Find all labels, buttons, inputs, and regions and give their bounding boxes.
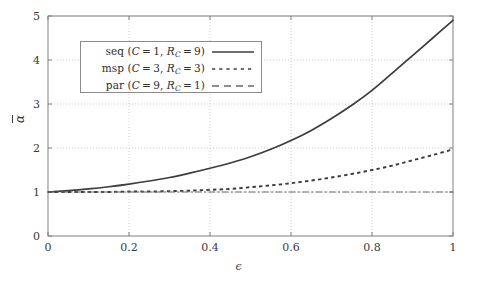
legend-label-par: par (C = 9, RC = 1) — [106, 79, 211, 93]
chart-figure: 0 1 2 3 4 5 0 0.2 0.4 0.6 0.8 1 ϵ α seq … — [0, 0, 477, 281]
ytick-label-1: 1 — [18, 186, 40, 199]
legend-entry-msp: msp (C = 3, RC = 3) — [81, 60, 263, 77]
x-axis-label: ϵ — [0, 260, 477, 273]
legend-entry-seq: seq (C = 1, RC = 9) — [81, 43, 263, 60]
legend-label-msp: msp (C = 3, RC = 3) — [102, 62, 211, 76]
legend-sample-par — [211, 80, 255, 92]
legend-sample-seq — [211, 46, 255, 58]
legend-entry-par: par (C = 9, RC = 1) — [81, 77, 263, 94]
y-axis-label: α — [13, 105, 27, 133]
xtick-label-1: 0.2 — [109, 241, 149, 254]
legend-label-seq: seq (C = 1, RC = 9) — [106, 45, 212, 59]
y-axis-label-text: α — [13, 115, 27, 123]
ytick-label-4: 4 — [18, 54, 40, 67]
legend-sample-msp — [211, 63, 255, 75]
xtick-label-3: 0.6 — [271, 241, 311, 254]
curve-dotted — [48, 149, 453, 192]
legend: seq (C = 1, RC = 9) msp (C = 3, RC = 3) … — [80, 41, 262, 93]
ytick-label-5: 5 — [18, 10, 40, 23]
ytick-label-2: 2 — [18, 142, 40, 155]
xtick-label-2: 0.4 — [190, 241, 230, 254]
xtick-label-0: 0 — [28, 241, 68, 254]
xtick-label-5: 1 — [433, 241, 473, 254]
xtick-label-4: 0.8 — [352, 241, 392, 254]
